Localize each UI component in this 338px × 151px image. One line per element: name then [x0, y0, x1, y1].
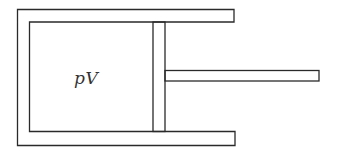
piston-head	[153, 22, 165, 132]
cylinder-outer-wall	[18, 10, 236, 146]
gas-state-label: pV	[74, 68, 98, 88]
diagram-canvas	[0, 0, 338, 151]
piston-rod	[165, 71, 319, 82]
